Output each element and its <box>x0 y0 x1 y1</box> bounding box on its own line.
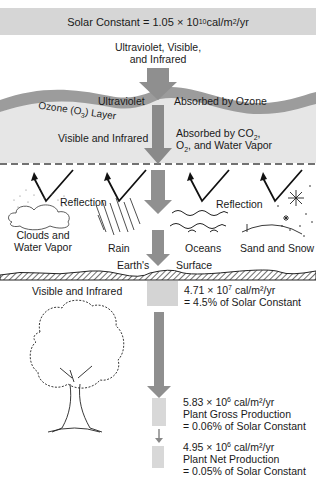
sand-snow-illustration <box>242 185 313 237</box>
gross-production-box <box>152 398 166 426</box>
surface-label-oceans: Oceans <box>185 242 221 254</box>
absorbed-by-ozone-label: Absorbed by Ozone <box>174 95 267 107</box>
reflection-label-right: Reflection <box>216 198 263 210</box>
visible-infrared-label: Visible and Infrared <box>58 132 148 144</box>
reflection-label-left: Reflection <box>60 196 107 208</box>
net-production-text: 4.95 × 106 cal/m²/yr Plant Net Productio… <box>183 441 306 477</box>
incoming-radiation-label: Ultraviolet, Visible, and Infrared <box>98 41 218 65</box>
gross-production-text: 5.83 × 106 cal/m²/yr Plant Gross Product… <box>183 396 306 432</box>
surface-energy-text: 4.71 × 107 cal/m²/yr = 4.5% of Solar Con… <box>184 284 301 308</box>
cloud-illustration <box>9 187 70 229</box>
surface-label: Surface <box>176 259 212 271</box>
surface-label-sand-snow: Sand and Snow <box>240 242 314 254</box>
surface-arrow <box>146 230 170 266</box>
earths-label: Earth's <box>117 259 149 271</box>
photosynthesis-arrow <box>147 312 171 398</box>
ultraviolet-label: Ultraviolet <box>98 95 145 107</box>
absorbed-co2-label: Absorbed by CO2, O2, and Water Vapor <box>176 127 272 151</box>
ocean-illustration <box>170 211 228 233</box>
surface-visible-infrared-label: Visible and Infrared <box>32 285 122 297</box>
surface-label-clouds: Clouds and Water Vapor <box>8 229 78 253</box>
surface-label-rain: Rain <box>108 242 130 254</box>
surface-energy-box <box>147 281 178 306</box>
tree-illustration <box>30 300 124 432</box>
reflection-zone-arrow <box>144 170 172 214</box>
net-production-box <box>152 446 164 468</box>
